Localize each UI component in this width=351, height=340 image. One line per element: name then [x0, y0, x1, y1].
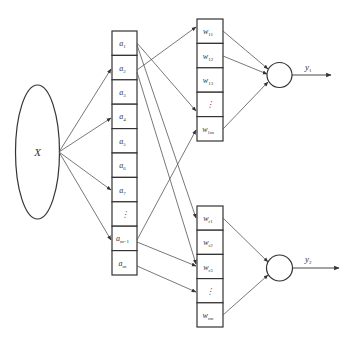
w-upper-cell: ⋮	[197, 92, 223, 116]
hidden-to-weight-connections	[137, 27, 196, 292]
w-lower-cell: wr1	[197, 206, 223, 230]
a-cell: a4	[112, 104, 137, 128]
a-cell: ⋮	[112, 202, 137, 226]
w-lower-cell: ⋮	[197, 279, 223, 303]
input-node-x: X	[16, 85, 60, 219]
w-lower-cell: wrm	[197, 303, 223, 327]
a-cell: a1	[112, 31, 137, 55]
w-upper-cell-label: ⋮	[206, 100, 214, 109]
output-node-1: y1	[267, 62, 331, 88]
output-label-y1: y1	[304, 62, 312, 73]
hidden-layer-a-column: a1a2a3a4a5a6a7⋮am−1am	[112, 31, 137, 275]
w-lower-cell: wr2	[197, 230, 223, 254]
weight-column-lower: wr1wr2wr3⋮wrm	[197, 206, 223, 327]
weight-to-output-connections	[223, 31, 268, 315]
a-cell: a7	[112, 177, 137, 201]
w-upper-cell: w12	[197, 43, 223, 67]
output-node-2: y2	[267, 254, 340, 281]
input-connections	[59, 69, 111, 240]
w-lower-cell: wr3	[197, 254, 223, 278]
weight-column-upper: w11w12w13⋮w1m	[197, 19, 223, 141]
w-lower-cell-label: ⋮	[206, 287, 214, 296]
a-cell: am−1	[112, 226, 137, 250]
a-cell: a5	[112, 129, 137, 153]
w-upper-cell: w13	[197, 68, 223, 92]
a-cell: a3	[112, 80, 137, 104]
output-label-y2: y2	[304, 254, 312, 265]
neural-network-diagram: X a1a2a3a4a5a6a7⋮am−1am w11w12w13⋮w1m wr…	[0, 0, 351, 340]
input-label: X	[33, 146, 42, 158]
a-cell: a2	[112, 55, 137, 79]
w-upper-cell: w11	[197, 19, 223, 43]
a-cell: am	[112, 251, 137, 275]
w-upper-cell: w1m	[197, 117, 223, 141]
a-cell-label: ⋮	[121, 210, 129, 219]
a-cell: a6	[112, 153, 137, 177]
